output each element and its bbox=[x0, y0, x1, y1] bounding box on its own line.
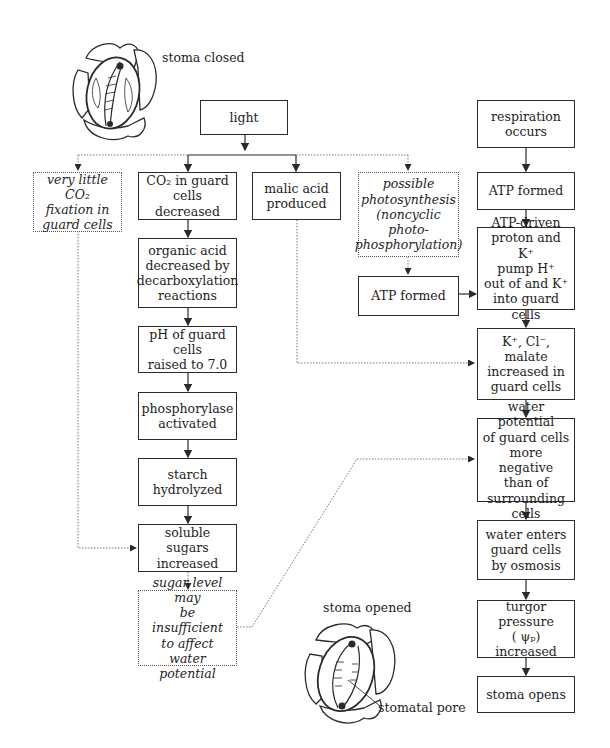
node-organic-acid: organic acid decreased by decarboxylatio… bbox=[138, 238, 237, 308]
node-stoma-opens: stoma opens bbox=[477, 676, 575, 713]
node-malic-acid: malic acid produced bbox=[252, 172, 341, 220]
node-atp-pump: ATP-driven proton and K⁺ pump H⁺ out of … bbox=[477, 227, 575, 310]
node-ph-raised: pH of guard cells raised to 7.0 bbox=[138, 326, 237, 373]
node-co2-decreased: CO₂ in guard cells decreased bbox=[138, 172, 237, 220]
node-turgor: turgor pressure ( ψₚ) increased bbox=[477, 600, 575, 658]
node-ions-increased: K⁺, Cl⁻, malate increased in guard cells bbox=[477, 328, 575, 400]
node-light: light bbox=[200, 100, 288, 135]
stoma-opened-label: stoma opened bbox=[323, 600, 412, 615]
node-co2-fixation: very little CO₂ fixation in guard cells bbox=[33, 172, 122, 232]
node-atp-formed-right: ATP formed bbox=[477, 172, 575, 210]
node-water-enters: water enters guard cells by osmosis bbox=[477, 520, 575, 580]
node-photosynthesis: possible photosynthesis (noncyclic photo… bbox=[358, 172, 459, 257]
node-water-potential: water potential of guard cells more nega… bbox=[477, 418, 575, 502]
node-soluble-sugars: soluble sugars increased bbox=[138, 524, 237, 572]
node-atp-formed-mid: ATP formed bbox=[358, 276, 459, 316]
node-sugar-level: sugar level may be insufficient to affec… bbox=[138, 590, 237, 666]
stoma-closed-illustration bbox=[68, 38, 168, 148]
node-phosphorylase: phosphorylase activated bbox=[138, 392, 237, 440]
stomatal-pore-label: stomatal pore bbox=[378, 700, 466, 715]
node-starch: starch hydrolyzed bbox=[138, 458, 237, 506]
node-respiration: respiration occurs bbox=[477, 100, 575, 148]
stoma-closed-label: stoma closed bbox=[162, 50, 245, 65]
